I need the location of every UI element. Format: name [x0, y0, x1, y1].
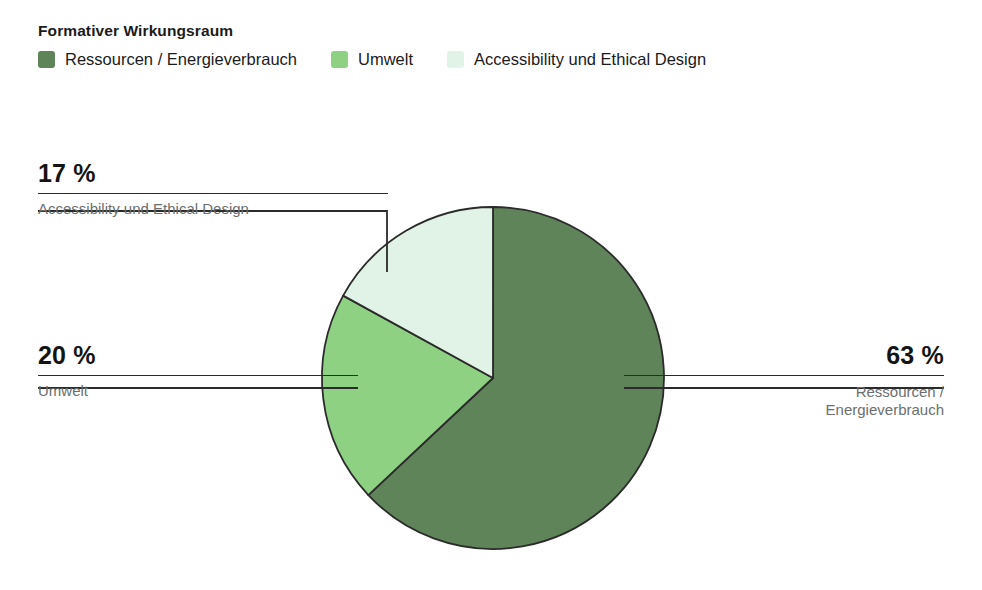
callout-accessibility-label: Accessibility und Ethical Design — [38, 200, 388, 219]
callout-ressourcen-value: 63 % — [624, 342, 944, 370]
leader-line — [38, 211, 387, 272]
callout-umwelt-rule — [38, 375, 358, 376]
callout-accessibility: 17 % Accessibility und Ethical Design — [38, 160, 388, 218]
callout-ressourcen-label: Ressourcen / Energieverbrauch — [624, 383, 944, 421]
callout-umwelt: 20 % Umwelt — [38, 342, 358, 400]
callout-ressourcen: 63 % Ressourcen / Energieverbrauch — [624, 342, 944, 420]
pie-chart-svg — [0, 0, 982, 590]
callout-umwelt-label: Umwelt — [38, 382, 358, 401]
pie-chart-area — [0, 0, 982, 590]
callout-ressourcen-rule — [624, 375, 944, 376]
callout-umwelt-value: 20 % — [38, 342, 358, 370]
callout-accessibility-value: 17 % — [38, 160, 388, 188]
callout-accessibility-rule — [38, 193, 388, 194]
pie-slice-group — [322, 207, 664, 549]
